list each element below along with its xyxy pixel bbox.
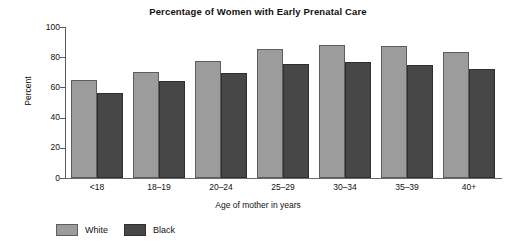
y-tick-label: 40 xyxy=(36,113,60,122)
x-tick-label: 30–34 xyxy=(314,182,376,192)
bar-white-2 xyxy=(195,61,221,178)
y-tick-label: 60 xyxy=(36,83,60,92)
bar-group xyxy=(190,27,252,178)
x-axis-title: Age of mother in years xyxy=(0,200,516,210)
chart-title: Percentage of Women with Early Prenatal … xyxy=(0,6,516,17)
bar-black-5 xyxy=(407,65,433,178)
y-tick-mark xyxy=(60,118,65,119)
bar-black-6 xyxy=(469,69,495,178)
y-tick-label: 100 xyxy=(36,23,60,32)
prenatal-care-bar-chart: Percentage of Women with Early Prenatal … xyxy=(0,0,516,251)
bar-black-0 xyxy=(97,93,123,178)
x-tick-label: 25–29 xyxy=(252,182,314,192)
bar-black-1 xyxy=(159,81,185,178)
x-tick-label: <18 xyxy=(66,182,128,192)
y-tick-label: 20 xyxy=(36,143,60,152)
x-tick-label: 20–24 xyxy=(190,182,252,192)
legend-entry-white[interactable]: White xyxy=(56,224,108,236)
bar-group xyxy=(376,27,438,178)
bar-group xyxy=(128,27,190,178)
bar-white-4 xyxy=(319,45,345,178)
legend-swatch-icon xyxy=(124,224,146,236)
chart-legend: WhiteBlack xyxy=(56,224,175,236)
x-tick-label: 35–39 xyxy=(376,182,438,192)
bar-white-5 xyxy=(381,46,407,178)
y-tick-mark xyxy=(60,87,65,88)
legend-label: White xyxy=(85,225,108,235)
bar-white-1 xyxy=(133,72,159,178)
plot-area xyxy=(66,27,500,178)
y-tick-label: 0 xyxy=(36,174,60,183)
y-tick-mark xyxy=(60,148,65,149)
bar-group xyxy=(252,27,314,178)
y-axis-title: Percent xyxy=(23,61,33,121)
y-tick-label: 80 xyxy=(36,53,60,62)
legend-entry-black[interactable]: Black xyxy=(124,224,175,236)
y-tick-mark xyxy=(60,27,65,28)
bar-group xyxy=(438,27,500,178)
legend-label: Black xyxy=(153,225,175,235)
bar-group xyxy=(66,27,128,178)
bar-white-3 xyxy=(257,49,283,178)
bar-black-3 xyxy=(283,64,309,178)
x-tick-label: 18–19 xyxy=(128,182,190,192)
x-tick-label: 40+ xyxy=(438,182,500,192)
x-axis-line xyxy=(65,178,502,179)
bar-group xyxy=(314,27,376,178)
bar-white-6 xyxy=(443,52,469,178)
bar-white-0 xyxy=(71,80,97,178)
y-tick-mark xyxy=(60,57,65,58)
bar-black-4 xyxy=(345,62,371,178)
bar-black-2 xyxy=(221,73,247,178)
legend-swatch-icon xyxy=(56,224,78,236)
y-tick-mark xyxy=(60,178,65,179)
